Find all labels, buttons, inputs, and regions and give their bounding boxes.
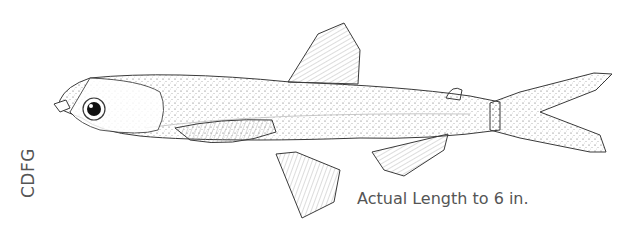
illustration: CDFG Actual Length to 6 in. [0,0,635,236]
anal-fin [372,134,448,176]
credit-label: CDFG [18,148,38,198]
size-caption: Actual Length to 6 in. [357,189,529,208]
eye-icon [83,98,105,120]
caudal-fin [490,73,612,152]
dorsal-fin [288,23,360,84]
pelvic-fin [276,152,340,218]
fish-drawing [0,0,635,236]
